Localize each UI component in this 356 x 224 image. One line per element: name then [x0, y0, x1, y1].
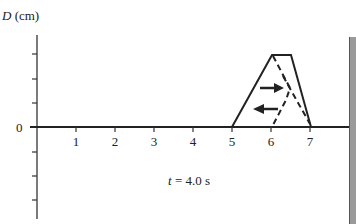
x-tick-labels: 1 2 3 4 5 6 7	[73, 134, 314, 149]
svg-text:3: 3	[151, 134, 158, 149]
fixed-wall	[349, 37, 356, 224]
svg-text:7: 7	[307, 134, 314, 149]
arrow-right-icon	[260, 83, 284, 93]
wave-pulse-diagram: D (cm) 0 1 2 3 4 5 6 7	[0, 0, 356, 224]
svg-text:5: 5	[229, 134, 236, 149]
pulse-solid-outline	[232, 55, 311, 127]
svg-text:2: 2	[112, 134, 119, 149]
time-annotation: t = 4.0 s	[168, 173, 210, 188]
svg-text:1: 1	[73, 134, 80, 149]
y-axis-label: D (cm)	[1, 8, 39, 23]
y-zero-label: 0	[16, 120, 23, 135]
svg-text:4: 4	[190, 134, 197, 149]
svg-text:6: 6	[268, 134, 275, 149]
arrow-left-icon	[253, 104, 278, 114]
